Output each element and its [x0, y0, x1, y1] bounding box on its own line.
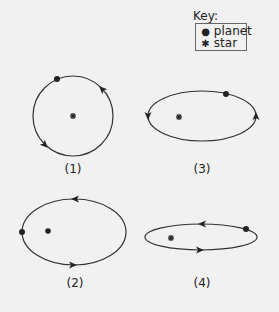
orbit-path-3 — [148, 91, 256, 141]
orbit-label-4: (4) — [194, 276, 211, 290]
star-icon — [45, 228, 51, 234]
orbit-1 — [33, 76, 113, 156]
orbit-label-2: (2) — [67, 276, 84, 290]
star-icon — [168, 235, 174, 241]
planet-icon — [243, 226, 249, 232]
key-legend: ● planet ✱ star — [195, 23, 247, 51]
orbit-path-2 — [22, 199, 126, 265]
key-title: Key: — [193, 9, 218, 23]
orbit-3 — [145, 91, 260, 141]
key-item-star: ✱ star — [201, 37, 237, 50]
planet-icon — [223, 91, 229, 97]
orbit-path-4 — [145, 224, 257, 250]
star-icon — [70, 113, 76, 119]
planet-icon — [19, 229, 25, 235]
orbit-2 — [19, 196, 126, 269]
star-asterisk-icon: ✱ — [201, 38, 210, 50]
key-label: star — [214, 36, 237, 50]
star-icon — [176, 114, 182, 120]
orbit-label-1: (1) — [65, 162, 82, 176]
orbit-label-3: (3) — [194, 162, 211, 176]
planet-icon — [54, 76, 60, 82]
orbit-4 — [145, 221, 257, 254]
